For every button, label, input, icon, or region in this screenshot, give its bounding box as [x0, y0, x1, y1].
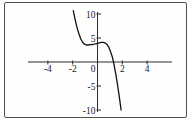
origin-label: 0 — [91, 64, 96, 74]
plot-canvas: -4-224105-5-100 — [0, 0, 195, 128]
figure: -4-224105-5-100 — [0, 0, 195, 128]
x-tick-label: 2 — [120, 64, 125, 74]
x-tick-label: -4 — [44, 64, 52, 74]
x-tick-label: -2 — [69, 64, 77, 74]
y-tick-label: 10 — [86, 10, 96, 20]
y-tick-label: 5 — [91, 34, 96, 44]
y-tick-label: -10 — [83, 106, 96, 116]
y-tick-label: -5 — [88, 82, 96, 92]
x-tick-label: 4 — [145, 64, 150, 74]
